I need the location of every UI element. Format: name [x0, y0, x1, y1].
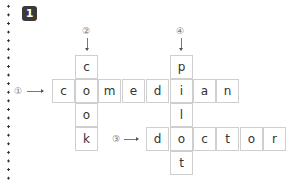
crossword-cell: k: [75, 127, 98, 151]
crossword-cell: o: [240, 127, 263, 151]
crossword-cell: r: [263, 127, 286, 151]
crossword-cell: p: [170, 55, 193, 79]
crossword-cell: e: [122, 79, 145, 103]
crossword-cell: n: [216, 79, 239, 103]
crossword-cell: l: [170, 103, 193, 127]
crossword-cell: a: [193, 79, 216, 103]
crossword-cell: t: [216, 127, 239, 151]
arrow-right-icon: [124, 139, 138, 140]
crossword-cell: d: [146, 79, 169, 103]
crossword-cell: o: [75, 79, 98, 103]
clue-number-4: ④: [176, 26, 184, 36]
arrow-right-icon: [27, 91, 43, 92]
crossword-cell: d: [146, 127, 169, 151]
crossword-cell: o: [170, 127, 193, 151]
crossword-cell: o: [75, 103, 98, 127]
crossword-cell: m: [98, 79, 121, 103]
crossword-cell: t: [170, 151, 193, 175]
crossword-cell: c: [193, 127, 216, 151]
crossword-cell: i: [170, 79, 193, 103]
arrow-down-icon: [181, 38, 182, 50]
clue-number-1: ①: [14, 86, 22, 96]
crossword-cell: c: [52, 79, 75, 103]
arrow-down-icon: [87, 38, 88, 50]
crossword-cell: c: [75, 55, 98, 79]
exercise-number-badge: 1: [22, 6, 37, 21]
clue-number-2: ②: [82, 26, 90, 36]
clue-number-3: ③: [112, 134, 120, 144]
binder-dots: [7, 2, 10, 182]
